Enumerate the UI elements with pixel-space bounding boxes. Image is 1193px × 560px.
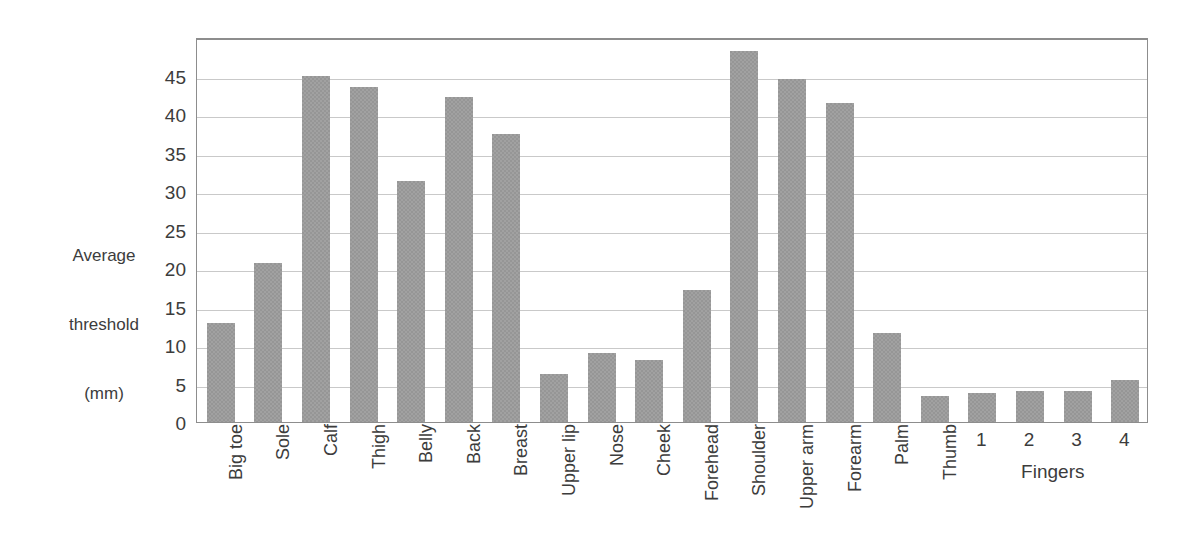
bar[interactable] [302, 76, 330, 423]
bar[interactable] [445, 97, 473, 422]
bar-slot [387, 40, 435, 422]
bar-slot [292, 40, 340, 422]
bar[interactable] [540, 374, 568, 422]
bar-slot [1054, 40, 1102, 422]
x-tick-label: Forehead [703, 424, 721, 501]
x-tick-label: Back [465, 424, 483, 464]
bar-slot [435, 40, 483, 422]
x-tick-label: Palm [893, 424, 911, 465]
bar[interactable] [968, 393, 996, 422]
bar-slot [1006, 40, 1054, 422]
x-tick-label: Upper arm [798, 424, 816, 509]
x-tick-label: Cheek [655, 424, 673, 476]
y-axis-title-line-3: (mm) [40, 382, 168, 405]
bar-slot [578, 40, 626, 422]
y-tick-label: 5 [150, 376, 186, 395]
bar-slot [816, 40, 864, 422]
y-axis-title-line-2: threshold [40, 313, 168, 336]
bar-series [197, 40, 1147, 422]
y-tick-label: 15 [150, 299, 186, 318]
bar[interactable] [635, 360, 663, 422]
bar-slot [721, 40, 769, 422]
bar-slot [673, 40, 721, 422]
bar[interactable] [873, 333, 901, 422]
x-tick-label: Big toe [227, 424, 245, 480]
bar[interactable] [778, 79, 806, 422]
bar-slot [340, 40, 388, 422]
x-tick-label: Nose [608, 424, 626, 466]
bar-slot [863, 40, 911, 422]
bar-slot [959, 40, 1007, 422]
bar[interactable] [730, 51, 758, 422]
y-tick-label: 45 [150, 68, 186, 87]
y-tick-label: 25 [150, 222, 186, 241]
bar[interactable] [492, 134, 520, 422]
y-axis-title-line-1: Average [40, 244, 168, 267]
x-tick-label: Belly [417, 424, 435, 463]
y-tick-label: 30 [150, 183, 186, 202]
x-tick-label: 1 [976, 430, 987, 449]
bar-slot [245, 40, 293, 422]
y-axis-title: Average threshold (mm) [40, 198, 168, 451]
bar[interactable] [397, 181, 425, 422]
bar[interactable] [350, 87, 378, 422]
x-tick-label: 3 [1071, 430, 1082, 449]
x-tick-label: Thumb [941, 424, 959, 480]
x-tick-label: Forearm [846, 424, 864, 492]
plot-area [196, 38, 1148, 423]
y-tick-label: 20 [150, 260, 186, 279]
bar-slot [530, 40, 578, 422]
y-axis-tick-labels: 051015202530354045 [150, 35, 186, 430]
y-tick-label: 10 [150, 337, 186, 356]
x-tick-label: Breast [512, 424, 530, 476]
x-axis-tick-labels: Big toeSoleCalfThighBellyBackBreastUpper… [196, 424, 1148, 544]
bar[interactable] [1111, 380, 1139, 422]
bar-slot [625, 40, 673, 422]
bar-slot [483, 40, 531, 422]
x-tick-label: 2 [1024, 430, 1035, 449]
x-tick-label: Upper lip [560, 424, 578, 496]
bar[interactable] [1064, 391, 1092, 422]
x-tick-label: Calf [322, 424, 340, 456]
x-tick-label: 4 [1119, 430, 1130, 449]
bar[interactable] [921, 396, 949, 422]
bar[interactable] [588, 353, 616, 422]
y-tick-label: 0 [150, 414, 186, 433]
bar[interactable] [1016, 391, 1044, 422]
bar[interactable] [826, 103, 854, 422]
bar[interactable] [207, 323, 235, 422]
bar-slot [1101, 40, 1149, 422]
bar-slot [197, 40, 245, 422]
y-tick-label: 35 [150, 145, 186, 164]
x-tick-label: Sole [274, 424, 292, 460]
bar-slot [911, 40, 959, 422]
bar-slot [768, 40, 816, 422]
y-tick-label: 40 [150, 106, 186, 125]
bar[interactable] [683, 290, 711, 422]
bar-chart-figure: Average threshold (mm) 05101520253035404… [0, 0, 1193, 560]
bar[interactable] [254, 263, 282, 422]
x-axis-group-label: Fingers [1021, 462, 1084, 481]
x-tick-label: Shoulder [750, 424, 768, 496]
x-tick-label: Thigh [370, 424, 388, 469]
